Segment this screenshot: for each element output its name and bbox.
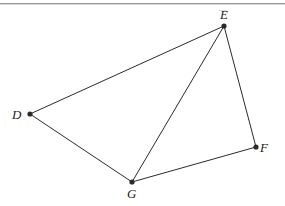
vertex-dot-g	[129, 179, 134, 184]
vertex-label-g: G	[127, 187, 136, 200]
vertex-dot-f	[253, 144, 258, 149]
edge-e-f	[224, 26, 256, 147]
vertices-group	[27, 23, 258, 184]
edge-g-d	[30, 114, 132, 182]
vertex-dot-d	[27, 111, 32, 116]
edge-f-g	[132, 147, 256, 182]
vertex-label-d: D	[12, 108, 21, 121]
edge-e-g-diagonal	[132, 26, 224, 182]
vertex-dot-e	[221, 23, 226, 28]
edges-group	[30, 26, 256, 182]
vertex-label-f: F	[260, 141, 268, 154]
edge-d-e	[30, 26, 224, 114]
geometry-canvas	[0, 0, 285, 206]
vertex-label-e: E	[220, 8, 228, 21]
geometry-figure: D E F G	[0, 0, 285, 206]
